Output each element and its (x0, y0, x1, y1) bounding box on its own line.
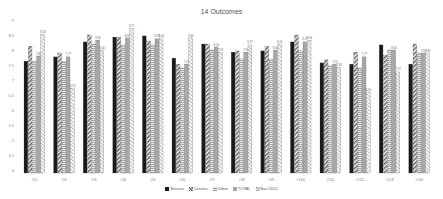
bar-udine (210, 50, 214, 173)
bar-cesena (354, 52, 358, 173)
legend-item-total: TOTAL (233, 186, 251, 191)
data-label: 8.53 (40, 30, 46, 34)
data-label: 7.27 (395, 67, 401, 71)
data-label: 8.71 (129, 24, 135, 28)
data-label: 7.77 (66, 52, 72, 56)
y-tick-label: 5 (12, 138, 15, 143)
legend-label: TOTAL (238, 186, 251, 191)
y-tick-label: 8.5 (8, 33, 14, 38)
bar-cesena (206, 44, 210, 173)
bar-group-o12: 7.776.60 (350, 52, 372, 173)
bar-bari-2012 (70, 88, 74, 173)
bar-cesena (235, 51, 239, 173)
bar-bari-2012 (426, 53, 430, 173)
bar-total (96, 40, 100, 173)
legend-swatch (213, 187, 217, 191)
bar-udine (358, 68, 362, 173)
bar-cesena (28, 46, 32, 173)
y-tick-label: 7 (12, 78, 15, 83)
bar-udine (269, 59, 273, 173)
bar-total (214, 47, 218, 173)
bar-bari-2012 (396, 72, 400, 173)
legend-label: Bari 2012 (261, 186, 278, 191)
bar-total (155, 39, 159, 173)
bar-group-o14: 7.907.90 (409, 44, 431, 173)
data-label: 8.00 (391, 46, 397, 50)
bar-total (244, 52, 248, 173)
x-tick-label: O10 (297, 177, 305, 182)
data-label: 8.33 (95, 36, 101, 40)
legend-label: Cesena (194, 186, 208, 191)
bar-group-o5: 8.378.40 (142, 34, 164, 174)
bar-udine (151, 45, 155, 173)
y-tick-label: 9 (12, 18, 15, 23)
y-axis: 44.555.566.577.588.59 (8, 18, 14, 173)
bar-brescia (142, 36, 146, 173)
bar-cesena (295, 35, 299, 173)
bar-brescia (261, 51, 265, 173)
bar-udine (299, 51, 303, 173)
legend-label: Brescia (170, 186, 183, 191)
bar-brescia (83, 42, 87, 173)
legend-item-brescia: Brescia (165, 186, 183, 191)
bar-brescia (379, 45, 383, 173)
bar-bari-2012 (366, 92, 370, 173)
y-tick-label: 7.5 (8, 63, 14, 68)
bar-group-o10: 8.278.33 (290, 35, 312, 173)
bar-total (37, 56, 41, 173)
bar-group-o13: 8.007.27 (379, 45, 401, 173)
data-label: 7.77 (362, 52, 368, 56)
bar-group-o3: 8.338.00 (83, 35, 105, 173)
bar-group-o9: 8.008.20 (261, 40, 283, 174)
bar-total (66, 57, 70, 173)
bar-brescia (24, 61, 28, 173)
x-tick-label: O8 (239, 177, 245, 182)
y-tick-label: 4.5 (8, 153, 14, 158)
bar-brescia (202, 44, 206, 173)
data-label: 8.20 (277, 40, 283, 44)
bar-total (273, 50, 277, 173)
bar-group-o11: 7.537.43 (320, 60, 342, 173)
bar-udine (328, 66, 332, 173)
y-tick-label: 5.5 (8, 123, 14, 128)
x-tick-label: O1 (32, 177, 38, 182)
x-tick-label: O3 (91, 177, 97, 182)
x-tick-label: O4 (121, 177, 127, 182)
data-label: 8.33 (307, 36, 313, 40)
bar-cesena (117, 37, 121, 173)
bar-group-o8: 7.938.17 (231, 40, 253, 173)
bar-total (333, 64, 337, 173)
data-label: 7.90 (425, 49, 431, 53)
y-tick-label: 4 (12, 168, 15, 173)
bar-bari-2012 (248, 45, 252, 173)
bar-udine (388, 50, 392, 173)
legend-swatch (189, 187, 193, 191)
bar-brescia (290, 42, 294, 173)
bar-udine (32, 61, 36, 173)
y-tick-label: 8 (12, 48, 15, 53)
bar-brescia (231, 52, 235, 173)
legend-swatch (165, 187, 169, 191)
bar-bari-2012 (278, 44, 282, 173)
x-tick-label: O5 (150, 177, 156, 182)
legend-item-udine: Udine (213, 186, 228, 191)
y-tick-label: 6 (12, 108, 15, 113)
bar-bari-2012 (307, 40, 311, 173)
x-tick-label: O14 (416, 177, 424, 182)
bar-bari-2012 (218, 52, 222, 173)
x-tick-label: O6 (180, 177, 186, 182)
bar-cesena (176, 64, 180, 173)
bar-brescia (320, 63, 324, 173)
bar-group-o4: 8.408.71 (113, 24, 135, 173)
bar-udine (240, 59, 244, 173)
bar-total (362, 57, 366, 173)
data-label: 7.43 (336, 63, 342, 67)
data-label: 6.60 (366, 88, 372, 92)
bar-udine (121, 45, 125, 173)
x-tick-label: O2 (61, 177, 67, 182)
legend: BresciaCesenaUdineTOTALBari 2012 (0, 186, 443, 191)
bar-total (185, 64, 189, 173)
bar-total (421, 53, 425, 173)
bar-group-o7: 8.107.93 (202, 43, 224, 174)
bar-cesena (265, 46, 269, 173)
